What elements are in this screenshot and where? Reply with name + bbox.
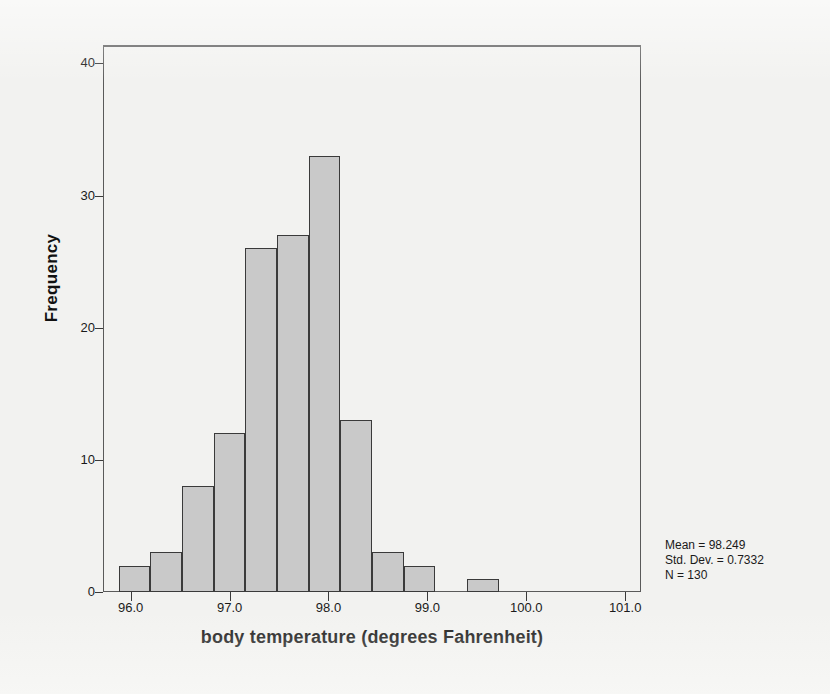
y-axis-tick-label: 10 [59, 453, 95, 466]
x-axis-tick-label: 97.0 [200, 600, 260, 615]
y-axis-tick-label: 30 [59, 189, 95, 202]
histogram-page: 010203040 Frequency 96.097.098.099.0100.… [0, 0, 830, 694]
y-axis-tick-mark [95, 63, 103, 64]
y-axis-tick-mark [95, 460, 103, 461]
x-axis-tick-label: 100.0 [496, 600, 556, 615]
x-axis-tick-label: 96.0 [101, 600, 161, 615]
bars-layer [103, 45, 641, 592]
y-axis-tick-label: 40 [59, 56, 95, 69]
x-axis-tick-label: 99.0 [397, 600, 457, 615]
histogram-bar [182, 486, 214, 592]
stat-std-dev: Std. Dev. = 0.7332 [665, 553, 764, 568]
stat-mean: Mean = 98.249 [665, 538, 764, 553]
histogram-bar [214, 433, 246, 592]
histogram-bar [277, 235, 309, 592]
y-axis-title: Frequency [42, 208, 62, 348]
histogram-bar [119, 566, 151, 592]
y-axis-tick-label: 0 [59, 585, 95, 598]
x-axis-tick-label: 101.0 [595, 600, 655, 615]
histogram-bar [372, 552, 404, 592]
y-axis-tick-label: 20 [59, 321, 95, 334]
histogram-bar [467, 579, 499, 592]
histogram-bar [309, 156, 341, 592]
histogram-bar [404, 566, 436, 592]
x-axis-tick-label: 98.0 [298, 600, 358, 615]
stat-n: N = 130 [665, 568, 764, 583]
statistics-annotation: Mean = 98.249 Std. Dev. = 0.7332 N = 130 [665, 538, 764, 583]
x-axis-title: body temperature (degrees Fahrenheit) [103, 627, 641, 648]
histogram-chart: 010203040 Frequency 96.097.098.099.0100.… [0, 0, 830, 694]
y-axis-tick-mark [95, 592, 103, 593]
y-axis-tick-mark [95, 328, 103, 329]
histogram-bar [150, 552, 182, 592]
histogram-bar [340, 420, 372, 592]
histogram-bar [245, 248, 277, 592]
y-axis-tick-mark [95, 196, 103, 197]
